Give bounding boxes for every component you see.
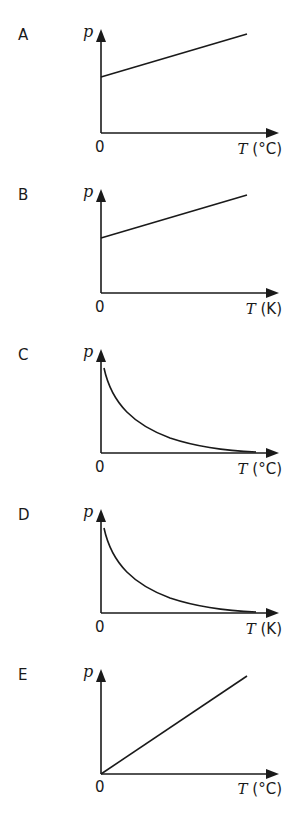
- x-axis-unit: (K): [260, 300, 282, 318]
- x-axis-label: T (°C): [238, 780, 282, 798]
- x-axis-label: T (°C): [238, 460, 282, 478]
- x-axis-symbol: T: [246, 300, 256, 318]
- x-axis-label: T (K): [246, 620, 282, 638]
- x-axis-symbol: T: [238, 780, 248, 798]
- graph-option-d: D p 0 T (K): [0, 480, 302, 640]
- y-axis-label: p: [83, 22, 93, 41]
- y-axis-label: p: [83, 182, 93, 201]
- x-axis-label: T (°C): [238, 140, 282, 158]
- graph-a-plot: [0, 0, 302, 160]
- graph-c-plot: [0, 320, 302, 480]
- origin-label: 0: [95, 778, 105, 796]
- option-label: A: [18, 26, 28, 44]
- graph-option-e: E p 0 T (°C): [0, 640, 302, 800]
- origin-label: 0: [95, 298, 105, 316]
- option-label: E: [18, 666, 27, 684]
- x-axis-unit: (K): [260, 620, 282, 638]
- x-axis-label: T (K): [246, 300, 282, 318]
- origin-label: 0: [95, 458, 105, 476]
- graph-option-a: A p 0 T (°C): [0, 0, 302, 160]
- option-label: B: [18, 186, 28, 204]
- graph-option-c: C p 0 T (°C): [0, 320, 302, 480]
- origin-label: 0: [95, 138, 105, 156]
- y-axis-label: p: [83, 342, 93, 361]
- graph-e-plot: [0, 640, 302, 800]
- x-axis-symbol: T: [246, 620, 256, 638]
- graph-d-plot: [0, 480, 302, 640]
- graph-option-b: B p 0 T (K): [0, 160, 302, 320]
- x-axis-unit: (°C): [252, 780, 282, 798]
- option-label: C: [18, 346, 28, 364]
- graph-b-plot: [0, 160, 302, 320]
- x-axis-unit: (°C): [252, 140, 282, 158]
- y-axis-label: p: [83, 662, 93, 681]
- origin-label: 0: [95, 618, 105, 636]
- option-label: D: [18, 506, 30, 524]
- x-axis-unit: (°C): [252, 460, 282, 478]
- y-axis-label: p: [83, 502, 93, 521]
- x-axis-symbol: T: [238, 460, 248, 478]
- x-axis-symbol: T: [238, 140, 248, 158]
